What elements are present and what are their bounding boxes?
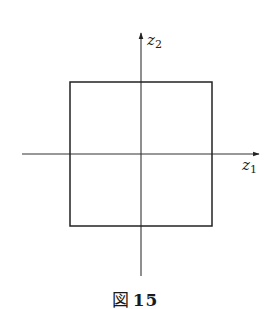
figure-caption: 図15 (0, 286, 270, 309)
diagram-canvas: z2 z1 (0, 0, 270, 309)
z2-axis-label: z2 (146, 31, 162, 51)
z1-axis-label: z1 (241, 156, 257, 176)
figure-caption-prefix: 図 (112, 290, 130, 309)
figure-caption-number: 15 (133, 290, 159, 309)
